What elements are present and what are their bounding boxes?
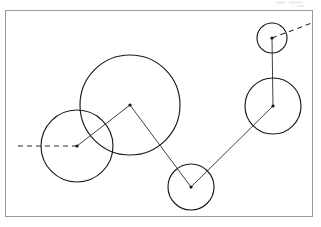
center-dot-big — [128, 103, 131, 106]
diagram-border — [6, 11, 313, 217]
scan-smudge — [276, 2, 304, 7]
center-dot-left — [75, 144, 78, 147]
center-dot-top-right — [270, 36, 273, 39]
center-dot-right — [271, 104, 274, 107]
diagram-canvas — [0, 0, 321, 227]
diagram-svg — [0, 0, 321, 227]
center-dot-bottom — [189, 185, 192, 188]
